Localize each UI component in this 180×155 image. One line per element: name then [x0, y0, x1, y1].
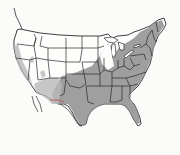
us-map-svg [0, 0, 180, 155]
canada-coast-line [14, 8, 22, 29]
range-map [0, 0, 180, 155]
